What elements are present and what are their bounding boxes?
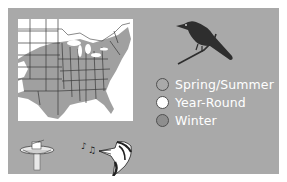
range-map-graphic bbox=[18, 19, 133, 121]
svg-text:♪: ♪ bbox=[81, 141, 87, 151]
birdbath-icon bbox=[18, 138, 56, 172]
range-card: Spring/Summer Year-Round Winter ♪ ♫ bbox=[8, 8, 279, 174]
winter-swatch bbox=[156, 114, 169, 127]
season-legend: Spring/Summer Year-Round Winter bbox=[156, 75, 274, 129]
legend-item-winter: Winter bbox=[156, 111, 274, 129]
legend-item-year-round: Year-Round bbox=[156, 93, 274, 111]
bird-silhouette-icon bbox=[174, 16, 236, 66]
spring-summer-swatch bbox=[156, 78, 169, 91]
legend-label: Spring/Summer bbox=[175, 77, 274, 92]
singing-bird-icon: ♪ ♫ bbox=[81, 136, 137, 176]
svg-text:♫: ♫ bbox=[88, 145, 96, 155]
legend-label: Winter bbox=[175, 113, 217, 128]
legend-item-spring-summer: Spring/Summer bbox=[156, 75, 274, 93]
year-round-swatch bbox=[156, 96, 169, 109]
range-map bbox=[18, 19, 133, 121]
legend-label: Year-Round bbox=[175, 95, 246, 110]
